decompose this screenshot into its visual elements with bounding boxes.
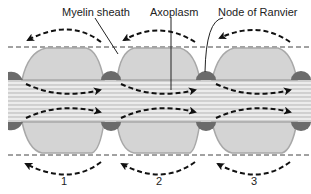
myelin-leader: [95, 18, 118, 54]
outer-current-arrows-bottom: [26, 162, 290, 175]
myelin-sheath-label: Myelin sheath: [62, 6, 130, 18]
axoplasm-label: Axoplasm: [150, 6, 198, 18]
segment-label-3: 3: [251, 175, 257, 187]
myelin-top: [22, 48, 297, 80]
myelinated-axon-diagram: [0, 0, 311, 194]
segment-label-2: 2: [156, 175, 162, 187]
node-of-ranvier-label: Node of Ranvier: [218, 6, 298, 18]
myelin-bottom: [22, 122, 297, 153]
segment-label-1: 1: [61, 175, 67, 187]
outer-current-arrows-top: [28, 29, 290, 42]
